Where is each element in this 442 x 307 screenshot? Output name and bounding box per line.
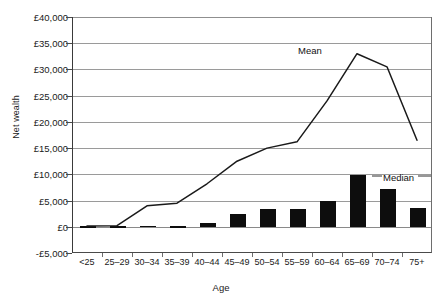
y-tick-label: £25,000 (4, 90, 68, 101)
x-tick-label: 30–34 (134, 257, 159, 267)
gridline (73, 17, 431, 18)
y-tick-label: -£5,000 (4, 248, 68, 259)
x-tick-label: 25–29 (104, 257, 129, 267)
bar (410, 208, 426, 226)
x-tick-mark (282, 253, 283, 257)
x-tick-mark (372, 253, 373, 257)
gridline (73, 122, 431, 123)
x-tick-label: 35–39 (164, 257, 189, 267)
net-wealth-by-age-chart: Net wealth £40,000£35,000£30,000£25,000£… (0, 0, 442, 307)
x-tick-label: 75+ (409, 257, 424, 267)
bar (110, 226, 126, 228)
x-tick-mark (132, 253, 133, 257)
x-tick-mark (312, 253, 313, 257)
y-tick-label: £40,000 (4, 12, 68, 23)
bar (80, 226, 96, 228)
x-tick-label: 60–64 (314, 257, 339, 267)
bar (200, 223, 216, 227)
bar (320, 201, 336, 227)
x-tick-label: 50–54 (254, 257, 279, 267)
y-tick-label: £5,000 (4, 195, 68, 206)
x-tick-label: 65–69 (344, 257, 369, 267)
x-tick-mark (252, 253, 253, 257)
y-tick-label: £30,000 (4, 64, 68, 75)
gridline (73, 201, 431, 202)
bar (230, 214, 246, 227)
x-axis-title: Age (0, 282, 442, 293)
x-tick-mark (102, 253, 103, 257)
median-label: Median (383, 172, 414, 183)
gridline (73, 69, 431, 70)
bar (290, 209, 306, 226)
x-tick-mark (342, 253, 343, 257)
gridline (73, 227, 431, 228)
bar (170, 226, 186, 228)
x-tick-label: 40–44 (194, 257, 219, 267)
gridline (73, 148, 431, 149)
x-tick-mark (222, 253, 223, 257)
x-tick-label: 70–74 (374, 257, 399, 267)
gridline (73, 96, 431, 97)
gridline (73, 174, 431, 175)
y-tick-label: £10,000 (4, 169, 68, 180)
x-tick-label: 45–49 (224, 257, 249, 267)
y-tick-mark (66, 253, 72, 254)
y-tick-label: £15,000 (4, 143, 68, 154)
x-tick-label: <25 (79, 257, 94, 267)
y-tick-label: £20,000 (4, 116, 68, 127)
y-tick-label: £35,000 (4, 38, 68, 49)
x-tick-mark (402, 253, 403, 257)
bar (380, 189, 396, 227)
y-tick-label: £0 (4, 221, 68, 232)
x-tick-mark (192, 253, 193, 257)
mean-label: Mean (298, 45, 322, 56)
x-tick-mark (162, 253, 163, 257)
bar (140, 226, 156, 228)
bar (350, 175, 366, 226)
gridline (73, 43, 431, 44)
x-tick-label: 55–59 (284, 257, 309, 267)
plot-area (72, 17, 432, 253)
bar (260, 209, 276, 227)
